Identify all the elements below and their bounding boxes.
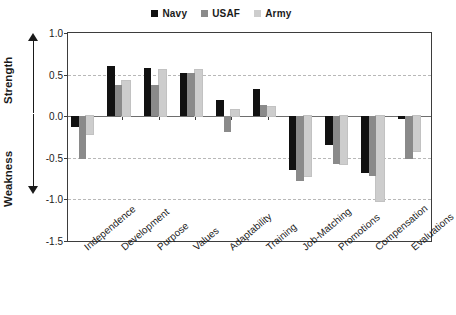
bar-usaf-evaluations[interactable]: [405, 116, 412, 159]
legend-label-army: Army: [265, 8, 291, 19]
bar-army-purpose[interactable]: [159, 70, 166, 116]
arrow-up-icon: [28, 33, 39, 113]
y-axis-tick-label: 0.0: [49, 111, 63, 122]
bar-group: [68, 33, 104, 241]
bar-group: [177, 33, 213, 241]
bar-army-promotions[interactable]: [340, 116, 347, 164]
bar-navy-adaptability[interactable]: [216, 100, 223, 117]
legend-swatch-navy: [151, 10, 158, 17]
legend-item-army[interactable]: Army: [254, 8, 291, 19]
bar-navy-compensation[interactable]: [361, 116, 368, 173]
bar-army-independence[interactable]: [86, 116, 93, 134]
y-axis-tick-mark: [64, 241, 68, 242]
bar-group: [250, 33, 286, 241]
y-axis-tick-mark: [64, 75, 68, 76]
bar-navy-promotions[interactable]: [325, 116, 332, 145]
bar-army-evaluations[interactable]: [413, 116, 420, 151]
y-axis-tick-mark: [64, 33, 68, 34]
legend-item-usaf[interactable]: USAF: [201, 8, 240, 19]
y-axis-tick-label: 0.5: [49, 69, 63, 80]
legend-swatch-army: [254, 10, 261, 17]
arrow-down-icon: [28, 114, 39, 194]
y-axis-tick-mark: [64, 199, 68, 200]
legend-swatch-usaf: [201, 10, 208, 17]
bar-navy-development[interactable]: [107, 66, 114, 116]
bar-army-training[interactable]: [267, 107, 274, 116]
bar-group: [286, 33, 322, 241]
gridline: [68, 75, 431, 76]
legend-label-usaf: USAF: [212, 8, 240, 19]
bar-group: [213, 33, 249, 241]
y-axis-tick-label: 1.0: [49, 28, 63, 39]
bar-usaf-training[interactable]: [260, 105, 267, 116]
bar-army-values[interactable]: [195, 70, 202, 117]
axis-annotation-weakness: Weakness: [2, 151, 14, 207]
bar-navy-independence[interactable]: [71, 116, 78, 127]
bar-navy-purpose[interactable]: [144, 68, 151, 116]
axis-annotation-strength: Strength: [2, 57, 14, 104]
bar-army-job-matching[interactable]: [304, 116, 311, 176]
legend-label-navy: Navy: [162, 8, 187, 19]
bar-usaf-independence[interactable]: [79, 116, 86, 159]
y-axis-tick-label: -1.5: [46, 236, 63, 247]
legend-item-navy[interactable]: Navy: [151, 8, 187, 19]
bar-navy-values[interactable]: [180, 73, 187, 116]
y-axis-tick-label: -1.0: [46, 194, 63, 205]
bar-group: [358, 33, 394, 241]
bar-usaf-purpose[interactable]: [151, 85, 158, 117]
bar-usaf-job-matching[interactable]: [296, 116, 303, 181]
chart-legend: Navy USAF Army: [0, 8, 443, 19]
y-axis-tick-mark: [64, 116, 68, 117]
bar-usaf-promotions[interactable]: [333, 116, 340, 164]
bar-navy-evaluations[interactable]: [398, 116, 405, 118]
x-axis-labels: IndependenceDevelopmentPurposeValuesAdap…: [67, 244, 432, 314]
bar-army-compensation[interactable]: [376, 116, 383, 201]
bar-usaf-development[interactable]: [115, 85, 122, 117]
bar-army-development[interactable]: [122, 81, 129, 116]
bar-usaf-compensation[interactable]: [369, 116, 376, 176]
bar-usaf-adaptability[interactable]: [224, 116, 231, 132]
bar-navy-training[interactable]: [253, 89, 260, 116]
bar-army-adaptability[interactable]: [231, 110, 238, 117]
y-axis-tick-mark: [64, 158, 68, 159]
bar-navy-job-matching[interactable]: [289, 116, 296, 170]
y-axis-tick-label: -0.5: [46, 152, 63, 163]
bar-usaf-values[interactable]: [187, 73, 194, 116]
